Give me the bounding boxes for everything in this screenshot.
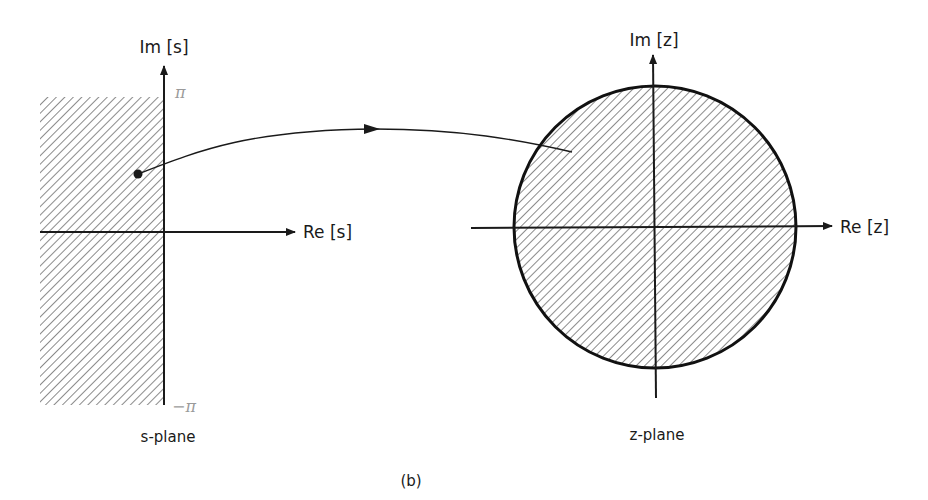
figure-caption: (b) — [400, 472, 421, 490]
s-plane-shaded-strip — [40, 97, 164, 405]
mapping-curve — [138, 129, 572, 174]
z-plane-real-axis-label: Re [z] — [840, 217, 889, 237]
s-plane-lower-bound-label: −π — [172, 397, 196, 416]
z-plane-label: z-plane — [630, 426, 685, 444]
s-to-z-mapping-diagram: Im [s] Re [s] π −π s-plane Im [z] Re [z]… — [0, 0, 928, 500]
z-plane-imag-axis-label: Im [z] — [629, 30, 678, 50]
s-plane-label: s-plane — [141, 428, 196, 446]
mapping-arrowhead-icon — [364, 124, 380, 134]
s-plane-upper-bound-label: π — [174, 83, 186, 102]
z-plane: Im [z] Re [z] z-plane — [471, 30, 889, 444]
s-plane: Im [s] Re [s] π −π s-plane — [40, 37, 352, 446]
s-plane-imag-axis-label: Im [s] — [139, 37, 188, 57]
s-plane-real-axis-label: Re [s] — [303, 222, 352, 242]
mapping-arrow — [138, 124, 572, 174]
